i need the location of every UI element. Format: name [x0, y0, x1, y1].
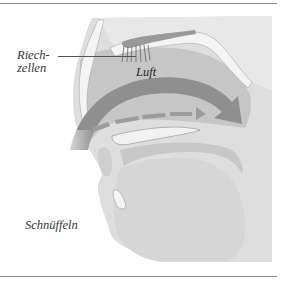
olfactory-cells-leader-line: [58, 56, 136, 57]
caption-sniffing: Schnüffeln: [25, 219, 78, 232]
nasal-cavity-illustration: [0, 0, 287, 282]
olfactory-cells-label-line2: zellen: [17, 62, 50, 75]
tongue: [114, 158, 245, 262]
olfactory-cells-label: Riech- zellen: [17, 49, 50, 75]
air-label: Luft: [136, 66, 156, 79]
bottom-rule: [0, 276, 277, 277]
